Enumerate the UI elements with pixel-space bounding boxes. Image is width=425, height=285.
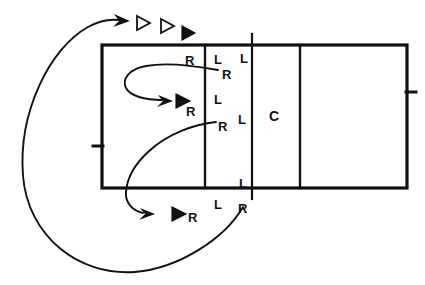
label-r-bottom-left: R	[188, 211, 197, 224]
label-c-center: C	[269, 109, 279, 123]
label-r-middle: R	[186, 105, 195, 118]
label-l-middle: L	[214, 93, 222, 106]
label-r-bottom-right: R	[238, 202, 247, 215]
lower-sweep-path	[126, 122, 216, 213]
label-l-top-mid: L	[214, 53, 222, 66]
label-l-top-right: L	[240, 52, 248, 65]
label-l-lower-inner: L	[238, 113, 246, 126]
label-r-upper-inner: R	[222, 68, 231, 81]
outer-sweep-path	[22, 20, 243, 273]
diagram-canvas	[0, 0, 425, 285]
lower-sweep-arrowhead-icon	[139, 208, 155, 220]
label-l-bottom-inner: L	[239, 177, 247, 190]
volleyball-rotation-diagram: R L L R L R R L C L L R R	[0, 0, 425, 285]
label-r-top-left: R	[185, 54, 194, 67]
triangle-open-1-icon	[137, 16, 150, 30]
triangle-open-2-icon	[161, 19, 174, 33]
label-r-lower-inner: R	[218, 120, 227, 133]
upper-loop-arrowhead-icon	[157, 95, 173, 107]
triangle-solid-bottom-icon	[172, 207, 186, 221]
label-l-bottom: L	[214, 198, 222, 211]
triangle-solid-top-icon	[182, 26, 195, 40]
